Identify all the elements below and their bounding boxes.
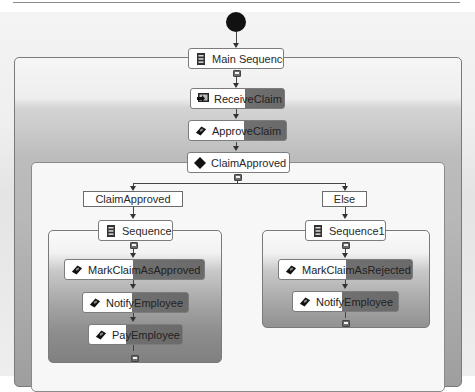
drop-target-icon[interactable] <box>130 242 138 249</box>
node-label: ReceiveClaim <box>214 93 282 105</box>
branch-line <box>133 183 345 184</box>
approve-claim-activity[interactable]: ApproveClaim <box>188 120 287 141</box>
activity-icon <box>71 264 83 276</box>
branch-else-label[interactable]: Else <box>322 191 367 207</box>
mark-claim-approved-activity[interactable]: MarkClaimAsApproved <box>64 259 205 280</box>
if-claim-approved-node[interactable]: ClaimApproved <box>187 152 290 173</box>
connector-line <box>345 312 346 318</box>
node-label: NotifyEmployee <box>316 296 393 308</box>
arrow-icon <box>233 146 239 151</box>
arrow-icon <box>233 114 239 119</box>
node-label: Sequence1 <box>329 225 385 237</box>
connector-line <box>133 345 134 351</box>
receive-claim-activity[interactable]: ReceiveClaim <box>190 88 285 109</box>
activity-icon <box>285 264 297 276</box>
start-node[interactable] <box>226 12 246 32</box>
branch-condition-label[interactable]: ClaimApproved <box>83 191 183 207</box>
notify-employee-activity[interactable]: NotifyEmployee <box>292 291 399 312</box>
node-label: MarkClaimAsApproved <box>88 264 200 276</box>
arrow-icon <box>342 284 348 289</box>
arrow-icon <box>342 214 348 219</box>
arrow-icon <box>130 317 136 322</box>
arrow-icon <box>130 214 136 219</box>
top-divider <box>13 2 460 3</box>
drop-target-icon[interactable] <box>234 174 242 181</box>
arrow-icon <box>342 253 348 258</box>
node-label: MarkClaimAsRejected <box>302 264 411 276</box>
node-label: ApproveClaim <box>212 125 281 137</box>
main-sequence-node[interactable]: Main Sequence <box>188 48 284 69</box>
arrow-icon <box>130 284 136 289</box>
drop-target-icon[interactable] <box>342 320 350 327</box>
drop-target-icon[interactable] <box>342 242 350 249</box>
node-label: Sequence <box>122 225 172 237</box>
mark-claim-rejected-activity[interactable]: MarkClaimAsRejected <box>278 259 413 280</box>
activity-icon <box>95 329 107 341</box>
node-label: Main Sequence <box>212 53 284 65</box>
activity-icon <box>195 125 207 137</box>
sequence-icon <box>312 225 324 237</box>
sequence-icon <box>105 225 117 237</box>
activity-icon <box>89 297 101 309</box>
receive-icon <box>197 93 209 105</box>
node-label: ClaimApproved <box>211 157 286 169</box>
diamond-icon <box>194 157 206 169</box>
sequence-icon <box>195 53 207 65</box>
sequence-node[interactable]: Sequence <box>98 220 173 241</box>
sequence1-node[interactable]: Sequence1 <box>305 220 386 241</box>
arrow-icon <box>130 253 136 258</box>
node-label: PayEmployee <box>112 329 180 341</box>
activity-icon <box>299 296 311 308</box>
drop-target-icon[interactable] <box>233 70 241 77</box>
pay-employee-activity[interactable]: PayEmployee <box>88 324 183 345</box>
notify-employee-activity[interactable]: NotifyEmployee <box>82 292 189 313</box>
drop-target-icon[interactable] <box>131 355 139 362</box>
node-label: NotifyEmployee <box>106 297 183 309</box>
